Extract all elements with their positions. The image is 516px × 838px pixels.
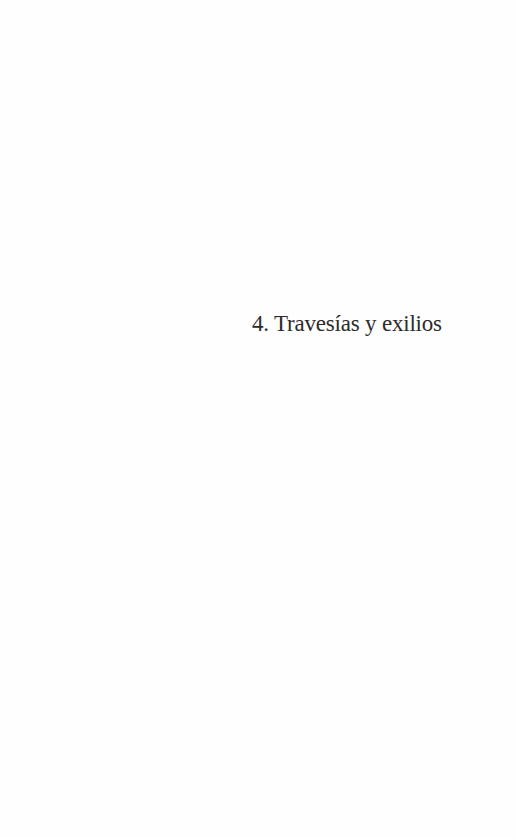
book-page: 4. Travesías y exilios	[0, 0, 516, 838]
chapter-title: 4. Travesías y exilios	[252, 309, 442, 339]
